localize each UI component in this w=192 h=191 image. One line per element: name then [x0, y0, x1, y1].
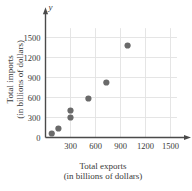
x-axis-arrowhead — [184, 135, 191, 140]
data-points — [49, 42, 131, 136]
x-axis-title-line-1: Total exports — [28, 161, 178, 171]
axis-lines — [43, 7, 191, 140]
y-tick-label: 1500 — [24, 33, 41, 43]
y-tick-label: 300 — [28, 113, 41, 123]
y-axis-title-line-1: Total imports — [5, 17, 15, 141]
y-tick-label: 1200 — [24, 53, 41, 63]
data-point — [49, 130, 55, 136]
x-tick-label: 300 — [64, 141, 77, 151]
y-axis-title-line-2: (in billions of dollars) — [15, 17, 25, 141]
x-tick-label: 1200 — [137, 141, 154, 151]
y-axis-arrowhead — [43, 7, 48, 14]
y-tick-label: 600 — [28, 93, 41, 103]
y-tick-label: 900 — [28, 73, 41, 83]
y-axis-letter: y — [48, 2, 53, 12]
data-point — [55, 125, 61, 131]
y-tick-label: 0 — [36, 133, 40, 143]
y-tick-labels: 030060090012001500 — [24, 33, 41, 143]
x-axis-title-line-2: (in billions of dollars) — [28, 171, 178, 181]
grid-lines — [46, 28, 178, 137]
data-point — [67, 114, 73, 120]
x-tick-label: 1500 — [162, 141, 179, 151]
x-tick-labels: 30060090012001500 — [64, 141, 179, 151]
data-point — [103, 79, 109, 85]
y-axis-title: Total imports (in billions of dollars) — [5, 17, 26, 141]
x-tick-label: 900 — [114, 141, 127, 151]
scatter-plot-figure: 30060090012001500 030060090012001500 xy … — [0, 0, 192, 191]
data-point — [85, 95, 91, 101]
data-point — [124, 42, 130, 48]
x-axis-title: Total exports (in billions of dollars) — [28, 161, 178, 182]
data-point — [67, 107, 73, 113]
x-tick-label: 600 — [89, 141, 102, 151]
